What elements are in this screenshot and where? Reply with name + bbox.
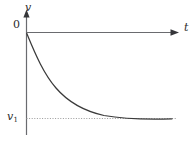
- t-axis-arrowhead: [171, 29, 180, 36]
- asymptote-value-label: v1: [7, 111, 18, 124]
- asymptote-value-subscript: 1: [13, 116, 17, 124]
- v-axis-label: v: [25, 2, 31, 13]
- physics-figure-v-t-graph: v t 0 v1: [0, 0, 195, 143]
- t-axis-label: t: [184, 22, 188, 33]
- origin-label: 0: [13, 19, 20, 30]
- plot-canvas: [0, 0, 195, 143]
- v-axis: [23, 10, 29, 136]
- decay-curve: [27, 34, 172, 120]
- t-axis: [27, 29, 180, 36]
